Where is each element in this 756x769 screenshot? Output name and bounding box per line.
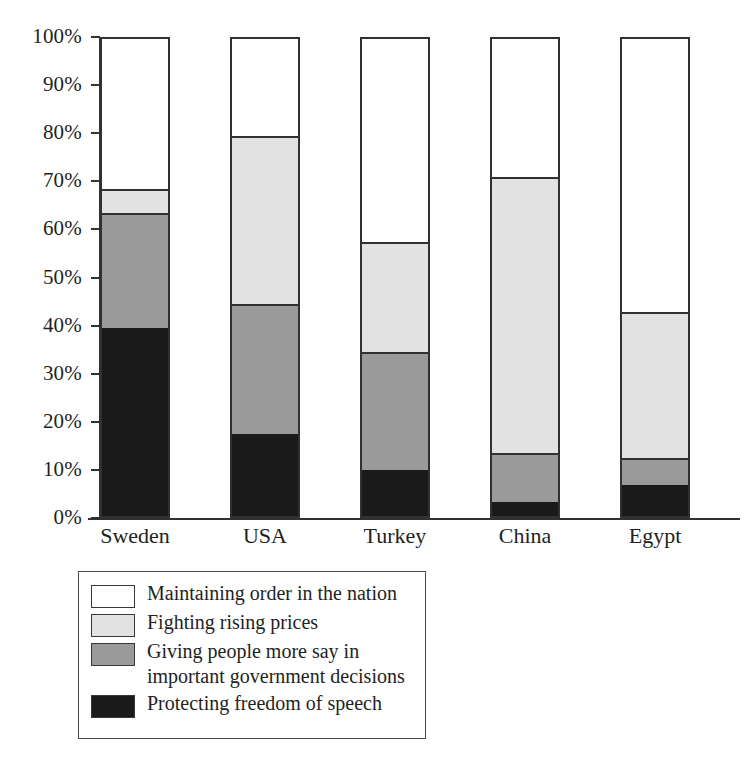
y-tick-label: 30% [18, 363, 82, 384]
legend-item: Maintaining order in the nation [79, 581, 425, 608]
chart-legend: Maintaining order in the nationFighting … [78, 571, 426, 739]
y-tick-label-text: 60% [18, 218, 82, 239]
x-axis-label-egypt: Egypt [565, 523, 745, 549]
bar-segment-black [492, 502, 558, 516]
legend-item: Fighting rising prices [79, 610, 425, 637]
y-tick-label: 70% [18, 170, 82, 191]
bar-segment-light-gray [362, 242, 428, 353]
legend-item: Protecting freedom of speech [79, 691, 425, 718]
y-tick-label-text: 80% [18, 122, 82, 143]
bar-sweden [100, 37, 170, 518]
y-tick-mark [91, 36, 100, 38]
y-tick-label-text: 30% [18, 363, 82, 384]
y-tick-mark [91, 84, 100, 86]
legend-swatch-icon [91, 695, 135, 718]
legend-label: Protecting freedom of speech [147, 691, 382, 716]
y-tick-mark [91, 325, 100, 327]
stacked-bar-chart: 100%90%80%70%60%50%40%30%20%10%0% Sweden… [0, 0, 756, 769]
bar-segment-white [492, 37, 558, 177]
y-tick-label: 10% [18, 459, 82, 480]
bar-segment-white [232, 37, 298, 136]
y-tick-label-text: 20% [18, 411, 82, 432]
bar-segment-gray [362, 352, 428, 470]
y-tick-label: 100% [18, 26, 82, 47]
y-tick-label-text: 40% [18, 315, 82, 336]
bar-segment-gray [492, 453, 558, 501]
bar-segment-gray [622, 458, 688, 484]
y-tick-label: 60% [18, 218, 82, 239]
legend-item: Giving people more say in important gove… [79, 639, 425, 689]
y-tick-mark [91, 277, 100, 279]
y-tick-label: 50% [18, 267, 82, 288]
bar-segment-black [102, 328, 168, 516]
bar-turkey [360, 37, 430, 518]
bar-segment-black [362, 470, 428, 516]
y-tick-label: 80% [18, 122, 82, 143]
y-tick-mark [91, 132, 100, 134]
legend-swatch-icon [91, 614, 135, 637]
y-tick-label: 20% [18, 411, 82, 432]
y-tick-mark [91, 373, 100, 375]
bar-segment-gray [102, 213, 168, 328]
y-tick-mark [91, 421, 100, 423]
bar-egypt [620, 37, 690, 518]
bar-segment-gray [232, 304, 298, 434]
y-tick-mark [91, 469, 100, 471]
y-tick-label: 40% [18, 315, 82, 336]
y-tick-label-text: 90% [18, 74, 82, 95]
legend-swatch-icon [91, 585, 135, 608]
y-tick-mark [91, 180, 100, 182]
legend-swatch-icon [91, 643, 135, 666]
bar-segment-white [102, 37, 168, 189]
bar-usa [230, 37, 300, 518]
y-tick-mark [91, 517, 100, 519]
plot-area [100, 37, 740, 518]
y-tick-mark [91, 228, 100, 230]
legend-label: Maintaining order in the nation [147, 581, 397, 606]
bar-china [490, 37, 560, 518]
y-tick-label-text: 100% [18, 26, 82, 47]
y-tick-label-text: 70% [18, 170, 82, 191]
bar-segment-light-gray [102, 189, 168, 213]
bar-segment-light-gray [232, 136, 298, 304]
bar-segment-light-gray [622, 312, 688, 459]
x-axis-line [88, 518, 740, 520]
y-tick-label: 90% [18, 74, 82, 95]
y-tick-label-text: 50% [18, 267, 82, 288]
legend-label: Fighting rising prices [147, 610, 318, 635]
bar-segment-white [362, 37, 428, 242]
bar-segment-black [232, 434, 298, 516]
bar-segment-light-gray [492, 177, 558, 454]
bar-segment-black [622, 485, 688, 516]
bar-segment-white [622, 37, 688, 312]
y-tick-label-text: 10% [18, 459, 82, 480]
legend-label: Giving people more say in important gove… [147, 639, 405, 689]
